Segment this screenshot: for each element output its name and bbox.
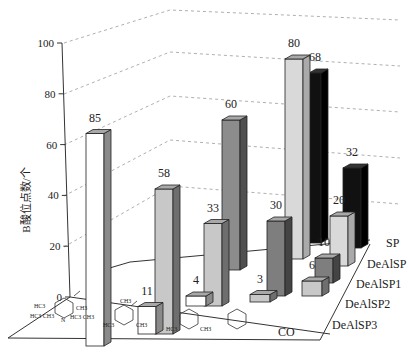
bar (302, 277, 329, 296)
bar-value-label: 85 (89, 111, 101, 125)
bar-value-label: 10 (318, 235, 330, 249)
depth-label-dealsp: DeAlSP (367, 257, 407, 271)
bar-value-label: 11 (141, 284, 153, 298)
svg-text:N: N (61, 317, 66, 323)
bar-value-label: 80 (288, 36, 300, 50)
y-tick-label: 40 (48, 189, 60, 201)
svg-text:HC3 CH3: HC3 CH3 (70, 314, 94, 320)
bar-value-label: 60 (225, 97, 237, 111)
bar-value-label: 33 (207, 201, 219, 215)
svg-text:HC3 CH3: HC3 CH3 (30, 313, 54, 319)
bar (250, 291, 277, 303)
y-tick-label: 0 (57, 291, 63, 303)
y-tick-label: 80 (45, 88, 57, 100)
bar (138, 303, 163, 335)
bar-value-label: 4 (193, 273, 199, 287)
y-tick-label: 60 (46, 139, 58, 151)
chart-3d-bar: 020406080100 B酸位点数/个 6832802060106303334… (0, 0, 409, 352)
y-tick-label: 20 (49, 240, 61, 252)
arrow-icon (74, 291, 80, 296)
pyridine-structure-icon (228, 309, 246, 329)
bar-value-label: 68 (309, 50, 321, 64)
y-axis: 020406080100 B酸位点数/个 (19, 37, 70, 303)
y-axis-label: B酸位点数/个 (19, 167, 32, 232)
arrow-icon (131, 301, 137, 306)
y-tick-label: 100 (38, 37, 55, 49)
svg-text:CH3: CH3 (120, 298, 131, 304)
bar-value-label: 3 (257, 272, 263, 286)
bar-value-label: 6 (309, 258, 315, 272)
bar-value-label: 32 (346, 145, 358, 159)
svg-text:CH3: CH3 (200, 326, 211, 332)
svg-text:HC3: HC3 (103, 322, 114, 328)
svg-text:HC3: HC3 (34, 303, 45, 309)
svg-text:CH3: CH3 (76, 305, 87, 311)
depth-label-dealsp2: DeAlSP2 (345, 297, 390, 311)
category-label-co: CO (278, 325, 295, 339)
bar-value-label: 20 (333, 193, 345, 207)
bar (267, 217, 292, 296)
bar-value-label: 58 (158, 166, 170, 180)
bar (309, 69, 328, 243)
depth-label-dealsp3: DeAlSP3 (332, 318, 377, 332)
depth-label-sp: SP (386, 236, 400, 250)
bar (186, 292, 213, 306)
depth-label-dealsp1: DeAlSP1 (356, 277, 401, 291)
svg-text:HC3: HC3 (166, 326, 177, 332)
svg-text:CH3: CH3 (136, 322, 147, 328)
bar-value-label: 30 (270, 198, 282, 212)
